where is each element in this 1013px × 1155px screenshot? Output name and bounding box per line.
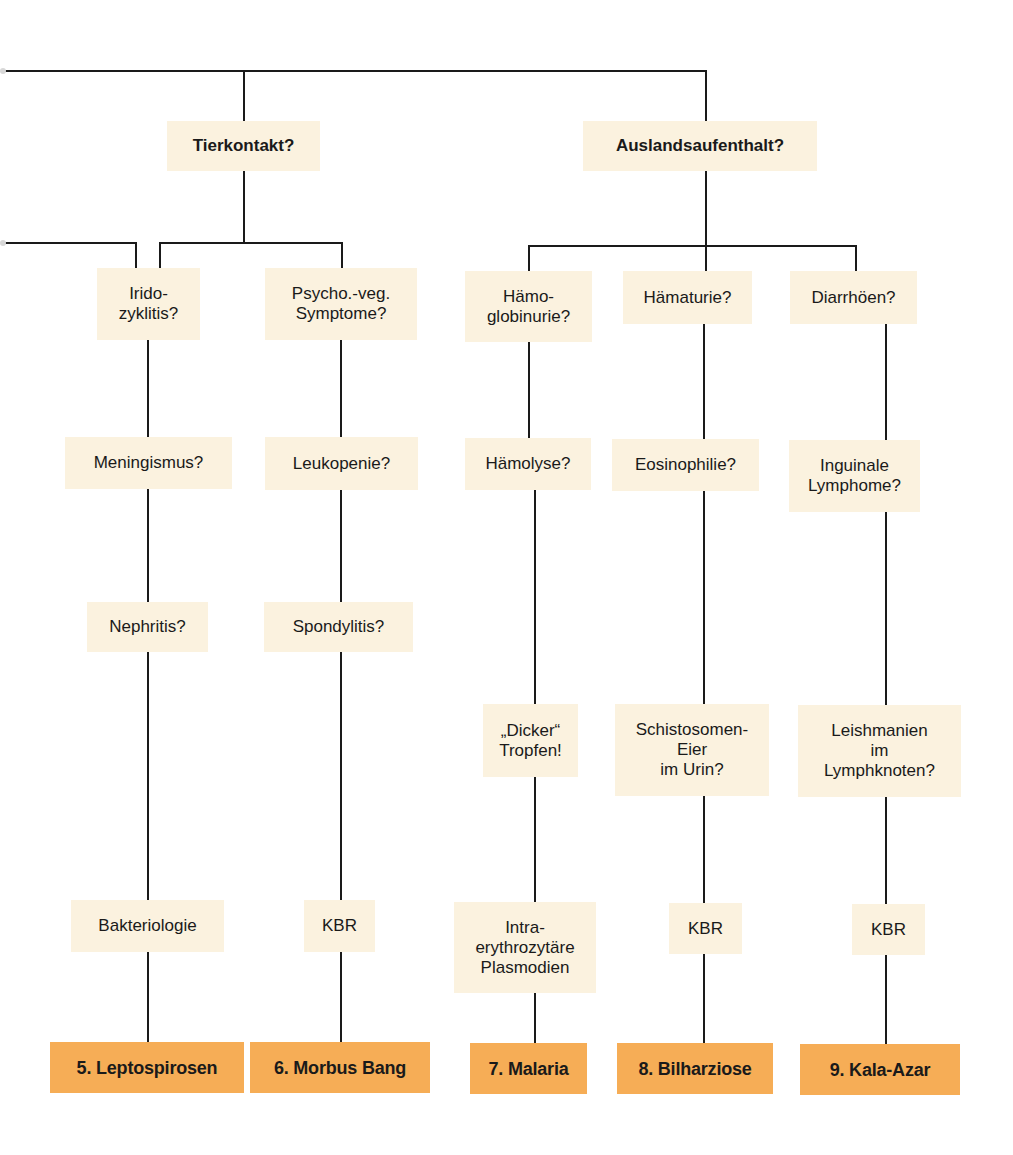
step-kbr-bilharziose: KBR [669, 903, 742, 954]
diagnosis-bilharziose: 8. Bilharziose [617, 1043, 773, 1094]
continuation-marker-top [0, 68, 6, 74]
question-tierkontakt: Tierkontakt? [167, 121, 320, 171]
diagnosis-morbus-bang: 6. Morbus Bang [250, 1042, 430, 1093]
diagnosis-malaria: 7. Malaria [470, 1043, 587, 1094]
diagnostic-flowchart: Tierkontakt? Auslandsaufenthalt? Irido- … [0, 0, 1013, 1155]
step-haemoglobinurie: Hämo- globinurie? [465, 271, 592, 342]
continuation-marker-middle [0, 240, 6, 246]
step-intraerythrozytaere-plasmodien: Intra- erythrozytäre Plasmodien [454, 902, 596, 993]
step-psycho-veg-symptome: Psycho.-veg. Symptome? [265, 268, 417, 340]
step-kbr-bang: KBR [304, 900, 375, 952]
question-auslandsaufenthalt: Auslandsaufenthalt? [583, 121, 817, 171]
step-leishmanien-lymphknoten: Leishmanien im Lymphknoten? [798, 705, 961, 797]
step-dicker-tropfen: „Dicker“ Tropfen! [483, 704, 578, 777]
step-haematurie: Hämaturie? [623, 271, 752, 324]
step-diarrhoeen: Diarrhöen? [790, 271, 917, 324]
step-nephritis: Nephritis? [87, 602, 208, 652]
step-meningismus: Meningismus? [65, 437, 232, 489]
step-haemolyse: Hämolyse? [465, 438, 591, 490]
step-kbr-kala-azar: KBR [852, 904, 925, 955]
step-leukopenie: Leukopenie? [265, 437, 418, 490]
step-inguinale-lymphome: Inguinale Lymphome? [789, 440, 920, 512]
step-spondylitis: Spondylitis? [264, 602, 413, 652]
diagnosis-leptospirosen: 5. Leptospirosen [50, 1042, 244, 1093]
step-bakteriologie: Bakteriologie [71, 900, 224, 952]
step-eosinophilie: Eosinophilie? [612, 439, 759, 491]
step-schistosomen-eier: Schistosomen- Eier im Urin? [615, 704, 769, 796]
diagnosis-kala-azar: 9. Kala-Azar [800, 1044, 960, 1095]
step-iridozyklitis: Irido- zyklitis? [97, 268, 200, 340]
